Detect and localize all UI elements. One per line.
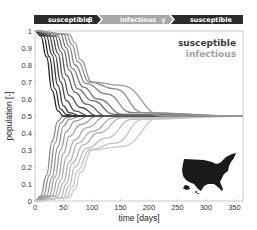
- y-tick-label: 0.1: [22, 180, 32, 189]
- beta-symbol: β: [88, 16, 93, 24]
- y-tick-label: 0.8: [22, 61, 32, 70]
- x-tick-label: 350: [228, 203, 241, 212]
- x-tick-label: 250: [171, 203, 184, 212]
- banner-label-susceptible-2: susceptible: [190, 16, 232, 24]
- gamma-symbol: γ: [161, 16, 166, 24]
- y-tick-label: 0.2: [22, 163, 32, 172]
- y-axis-label: population [-]: [4, 91, 14, 140]
- x-tick-label: 300: [200, 203, 213, 212]
- y-tick-label: 0.3: [22, 146, 32, 155]
- y-tick-label: 1: [28, 27, 32, 36]
- sis-population-chart: susceptible β infectious γ susceptible 0…: [0, 0, 257, 230]
- x-tick-label: 200: [143, 203, 156, 212]
- x-tick-label: 100: [86, 203, 99, 212]
- x-tick-label: 150: [114, 203, 127, 212]
- y-tick-label: 0.7: [22, 78, 32, 87]
- y-tick-label: 0.9: [22, 44, 32, 53]
- banner-label-susceptible: susceptible: [48, 16, 90, 24]
- x-axis-label: time [days]: [118, 213, 159, 223]
- y-tick-label: 0.5: [22, 112, 32, 121]
- banner-label-infectious: infectious: [120, 16, 156, 24]
- x-tick-label: 50: [59, 203, 67, 212]
- x-tick-label: 0: [33, 203, 37, 212]
- legend-item-susceptible: susceptible: [178, 38, 236, 48]
- legend-item-infectious: infectious: [186, 49, 236, 59]
- y-tick-label: 0.6: [22, 95, 32, 104]
- model-banner: susceptible β infectious γ susceptible: [34, 15, 243, 24]
- legend: susceptible infectious: [178, 38, 236, 59]
- y-tick-label: 0.4: [22, 129, 32, 138]
- y-tick-label: 0: [28, 197, 32, 206]
